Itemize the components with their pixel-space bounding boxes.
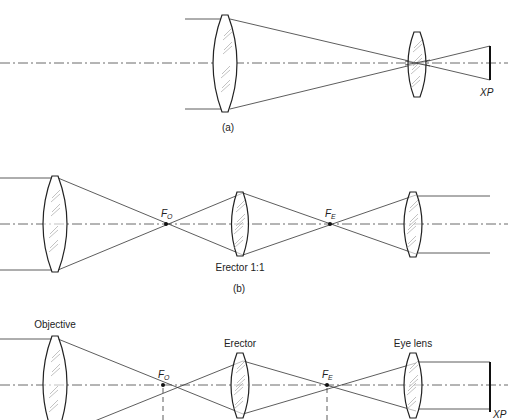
eyepiece-focus-label-c: FE — [322, 369, 333, 381]
ray-a-1 — [230, 19, 490, 80]
objective-focus-label-c: FO — [158, 369, 170, 381]
exit-pupil-label-a: XP — [479, 87, 494, 98]
objective-lens-c — [43, 336, 67, 420]
eye-lens-c — [404, 353, 422, 418]
eyepiece-focus-label-b: FE — [325, 208, 336, 220]
objective-lens-a — [213, 15, 237, 112]
panel-a: XP (a) — [0, 15, 508, 133]
objective-label-c: Objective — [34, 319, 76, 330]
panel-c: FO FE XP Objective Erector Eye lens — [0, 319, 508, 420]
ray-c-2 — [70, 361, 243, 420]
caption-b: (b) — [233, 283, 245, 294]
exit-pupil-label-c: XP — [492, 409, 507, 420]
caption-a: (a) — [222, 122, 234, 133]
ray-c-3 — [243, 361, 416, 411]
panel-b: FO FE Erector 1:1 (b) — [0, 176, 508, 294]
erector-lens-c — [231, 353, 249, 418]
ray-b-1 — [58, 178, 243, 255]
eye-lens-label-c: Eye lens — [394, 338, 432, 349]
erector-label-b: Erector 1:1 — [216, 262, 265, 273]
ray-a-2 — [230, 46, 490, 109]
ray-c-4 — [243, 363, 416, 414]
erector-label-c: Erector — [224, 338, 257, 349]
objective-lens-b — [43, 176, 67, 272]
objective-focus-label-b: FO — [161, 208, 173, 220]
ray-b-2 — [58, 193, 243, 270]
eyepiece-focus-point-c — [325, 383, 329, 387]
objective-focus-point-b — [164, 222, 168, 226]
ray-c-1 — [58, 339, 243, 414]
eyepiece-focus-point-b — [328, 222, 332, 226]
objective-focus-point-c — [161, 383, 165, 387]
eye-lens-b — [404, 192, 422, 257]
erector-lens-b — [232, 192, 249, 256]
optical-diagram: XP (a) FO FE — [0, 0, 508, 420]
